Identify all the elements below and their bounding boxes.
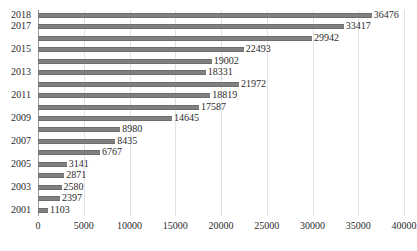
y-axis-category-labels: 2018201720152013201120092007200520032001 <box>0 10 34 216</box>
bar-row: 33417 <box>38 21 404 32</box>
bar-row: 2397 <box>38 193 404 204</box>
bar-value-label: 18331 <box>208 66 233 77</box>
x-axis-tick-label: 30000 <box>300 220 325 232</box>
bar <box>38 59 212 64</box>
bar <box>38 70 206 75</box>
bar <box>38 185 62 190</box>
bar-value-label: 2397 <box>62 192 82 203</box>
bar <box>38 208 48 213</box>
gridline <box>404 10 405 216</box>
x-axis-tick-label: 40000 <box>392 220 417 232</box>
y-axis-tick-label: 2005 <box>11 158 31 169</box>
x-axis-tick-label: 25000 <box>254 220 279 232</box>
y-axis-tick-label: 2018 <box>11 9 31 20</box>
bar-row: 14645 <box>38 113 404 124</box>
bar-value-label: 33417 <box>346 20 371 31</box>
y-axis-tick-label: 2003 <box>11 181 31 192</box>
bar <box>38 116 172 121</box>
bar-value-label: 8435 <box>117 135 137 146</box>
bar-value-label: 18819 <box>212 89 237 100</box>
bar-row: 1103 <box>38 205 404 216</box>
bar <box>38 139 115 144</box>
bar-value-label: 14645 <box>174 112 199 123</box>
y-axis-tick-label: 2015 <box>11 43 31 54</box>
y-axis-tick-label: 2011 <box>11 89 31 100</box>
bar-row: 2871 <box>38 170 404 181</box>
bar-row: 6767 <box>38 147 404 158</box>
bar <box>38 24 344 29</box>
bar <box>38 13 372 18</box>
bar-row: 18331 <box>38 67 404 78</box>
bar-value-label: 8980 <box>122 123 142 134</box>
x-axis-tick-label: 5000 <box>74 220 94 232</box>
bar-value-label: 17587 <box>201 101 226 112</box>
bar-value-label: 19002 <box>214 55 239 66</box>
bar-value-label: 3141 <box>69 158 89 169</box>
bar-row: 29942 <box>38 33 404 44</box>
bar <box>38 173 64 178</box>
bar-row: 8435 <box>38 136 404 147</box>
bar <box>38 127 120 132</box>
x-axis-tick-label: 0 <box>36 220 41 232</box>
x-axis-tick-label: 15000 <box>163 220 188 232</box>
bar-value-label: 1103 <box>50 204 70 215</box>
x-axis-tick-label: 35000 <box>346 220 371 232</box>
bar <box>38 162 67 167</box>
bar-row: 17587 <box>38 102 404 113</box>
bar <box>38 47 244 52</box>
bar <box>38 82 239 87</box>
bar-value-label: 29942 <box>314 32 339 43</box>
bar <box>38 196 60 201</box>
x-axis-tick-labels: 0500010000150002000025000300003500040000 <box>38 220 404 236</box>
y-axis-tick-label: 2013 <box>11 66 31 77</box>
bar-value-label: 6767 <box>102 146 122 157</box>
y-axis-tick-label: 2009 <box>11 112 31 123</box>
plot-area: 3647633417299422249319002183312197218819… <box>38 10 404 216</box>
bar-value-label: 2871 <box>66 169 86 180</box>
bar-value-label: 36476 <box>374 9 399 20</box>
bar-value-label: 21972 <box>241 78 266 89</box>
bar-row: 8980 <box>38 124 404 135</box>
y-axis-tick-label: 2001 <box>11 204 31 215</box>
bar <box>38 93 210 98</box>
x-axis-tick-label: 10000 <box>117 220 142 232</box>
bar-row: 3141 <box>38 159 404 170</box>
y-axis-tick-label: 2007 <box>11 135 31 146</box>
bar <box>38 150 100 155</box>
bar <box>38 105 199 110</box>
y-axis-tick-label: 2017 <box>11 20 31 31</box>
x-axis-tick-label: 20000 <box>209 220 234 232</box>
bar-value-label: 2580 <box>64 181 84 192</box>
bar-row: 2580 <box>38 182 404 193</box>
bar <box>38 36 312 41</box>
bar-value-label: 22493 <box>246 43 271 54</box>
